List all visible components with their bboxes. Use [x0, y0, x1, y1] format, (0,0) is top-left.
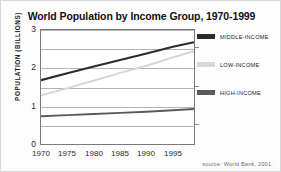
- legend-label-high-income: HIGH-INCOME: [220, 90, 261, 96]
- legend-item-middle-income[interactable]: MIDDLE-INCOME: [197, 32, 281, 41]
- y-tick-label-3: 3: [20, 24, 36, 34]
- legend-swatch-high-income: [197, 90, 215, 95]
- x-tick-label-1995: 1995: [158, 149, 188, 158]
- x-tick-label-1975: 1975: [52, 149, 82, 158]
- legend-item-high-income[interactable]: HIGH-INCOME: [197, 88, 281, 97]
- line-high-income: [41, 109, 194, 116]
- axis-tick-right-0-5: [195, 124, 199, 125]
- legend-label-middle-income: MIDDLE-INCOME: [220, 34, 269, 40]
- chart-legend: MIDDLE-INCOME LOW-INCOME HIGH-INCOME: [197, 32, 281, 116]
- x-tick-label-1990: 1990: [131, 149, 161, 158]
- y-tick-label-0: 0: [20, 139, 36, 149]
- source-note: source: World Bank, 2001.: [202, 161, 273, 167]
- legend-label-low-income: LOW-INCOME: [220, 62, 259, 68]
- chart-title: World Population by Income Group, 1970-1…: [1, 10, 281, 22]
- legend-item-low-income[interactable]: LOW-INCOME: [197, 60, 281, 69]
- y-axis-label: POPULATION (BILLIONS): [14, 2, 21, 112]
- series-lines: [41, 30, 194, 144]
- y-tick-label-1: 1: [20, 101, 36, 111]
- chart-figure: World Population by Income Group, 1970-1…: [0, 0, 281, 172]
- y-tick-label-2: 2: [20, 62, 36, 72]
- legend-swatch-middle-income: [197, 34, 215, 39]
- legend-swatch-low-income: [197, 62, 215, 67]
- plot-area: [40, 29, 195, 145]
